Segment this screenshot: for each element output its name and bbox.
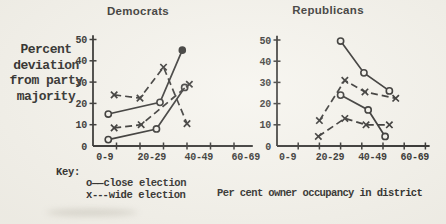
wide-election-upper-point [342,77,348,83]
y-tick-label: 30 [260,78,272,89]
close-election-upper-point [361,70,367,76]
dashed-line-glyph: --- [92,189,108,201]
x-tick-label: 0-9 [279,152,296,163]
y-axis-label-line: Percent [1,42,91,58]
close-election-upper-point [157,99,163,105]
y-tick-label: 0 [81,142,87,153]
close-election-upper-point [386,88,392,94]
close-election-lower-point [382,133,388,139]
close-election-lower-point [153,126,159,132]
key-legend: o——close election x---wide election [86,178,186,201]
x-tick-label: 0-9 [96,152,113,163]
democrats-chart: 010203040500-920-2940-4960-69 [76,35,261,163]
wide-election-lower-line [114,84,189,128]
scanned-figure-page: 010203040500-920-2940-4960-69 0102030405… [0,0,446,224]
x-tick-label: 60-69 [231,152,260,163]
republicans-chart-title: Republicans [268,4,388,16]
close-election-upper-line [108,50,182,114]
close-election-lower-point [338,92,344,98]
x-axis-caption: Per cent owner occupancy in district [217,187,422,199]
wide-election-lower-point [315,133,321,139]
x-tick-label: 40-49 [358,152,387,163]
y-tick-label: 0 [265,142,271,153]
wide-election-upper-point [316,117,322,123]
close-election-upper-point [105,111,111,117]
wide-election-upper-point [160,64,166,70]
close-election-lower-point [365,107,371,113]
y-tick-label: 10 [260,120,272,131]
y-axis-label-line: majority [1,89,91,105]
wide-election-lower-point [186,81,192,87]
scan-smudge-artifact [46,209,138,216]
y-tick-label: 40 [260,57,272,68]
x-tick-label: 20-29 [137,152,166,163]
close-election-lower-point [105,137,111,143]
x-tick-label: 40-49 [184,152,213,163]
x-tick-label: 60-69 [401,152,430,163]
key-item-wide-election: x---wide election [86,190,186,202]
close-election-upper-point [338,38,344,44]
y-axis-label-line: deviation [1,58,91,74]
solid-line-glyph: —— [92,177,103,189]
x-tick-label: 20-29 [316,152,345,163]
key-item-label: wide election [109,189,186,201]
y-axis-label-line: from party [1,73,91,89]
democrats-chart-title: Democrats [78,5,198,17]
close-election-upper-point [179,47,185,53]
y-tick-label: 10 [76,120,88,131]
key-heading: Key: [56,166,80,178]
key-item-label: close election [104,177,187,189]
wide-election-lower-point [386,122,392,128]
y-tick-label: 20 [260,99,272,110]
wide-election-upper-point [362,89,368,95]
y-axis-label: Percent deviation from party majority [1,42,91,104]
republicans-chart: 010203040500-920-2940-4960-69 [260,36,430,163]
y-tick-label: 50 [260,36,272,47]
